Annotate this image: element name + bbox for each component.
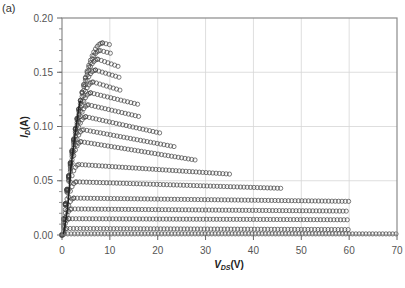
- series-curve-10: [60, 140, 197, 238]
- y-tick-label: 0.10: [34, 121, 54, 132]
- x-tick-label: 30: [200, 245, 212, 256]
- x-tick-label: 60: [344, 245, 356, 256]
- panel-label: (a): [2, 2, 15, 14]
- x-axis-title: VDS(V): [214, 259, 244, 271]
- x-tick-label: 10: [104, 245, 116, 256]
- x-tick-label: 20: [152, 245, 164, 256]
- y-tick-label: 0.20: [34, 13, 54, 24]
- y-tick-label: 0.00: [34, 230, 54, 241]
- y-axis-title: ID(A): [19, 116, 31, 138]
- y-axis: 0.000.050.100.150.20: [34, 13, 62, 241]
- y-tick-label: 0.15: [34, 67, 54, 78]
- data-series: [60, 41, 398, 237]
- iv-characteristics-chart: (a) 0.000.050.100.150.20 010203040506070…: [0, 0, 405, 288]
- x-tick-label: 40: [248, 245, 260, 256]
- x-tick-label: 0: [59, 245, 65, 256]
- y-tick-label: 0.05: [34, 175, 54, 186]
- x-axis: 010203040506070: [59, 235, 403, 256]
- x-tick-label: 70: [391, 245, 403, 256]
- x-tick-label: 50: [296, 245, 308, 256]
